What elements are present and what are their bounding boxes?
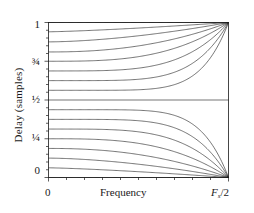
delay-curve bbox=[49, 23, 229, 71]
plot-svg bbox=[0, 0, 254, 213]
x-axis-ticks bbox=[49, 178, 229, 182]
data-curves bbox=[49, 23, 229, 178]
delay-curve bbox=[49, 158, 229, 177]
delay-curve bbox=[49, 129, 229, 177]
y-axis-ticks bbox=[45, 23, 49, 178]
delay-curve bbox=[49, 23, 229, 42]
chart-figure: Delay (samples) 1 ¾ ½ ¼ 0 0 Fs/2 Frequen… bbox=[0, 0, 254, 213]
